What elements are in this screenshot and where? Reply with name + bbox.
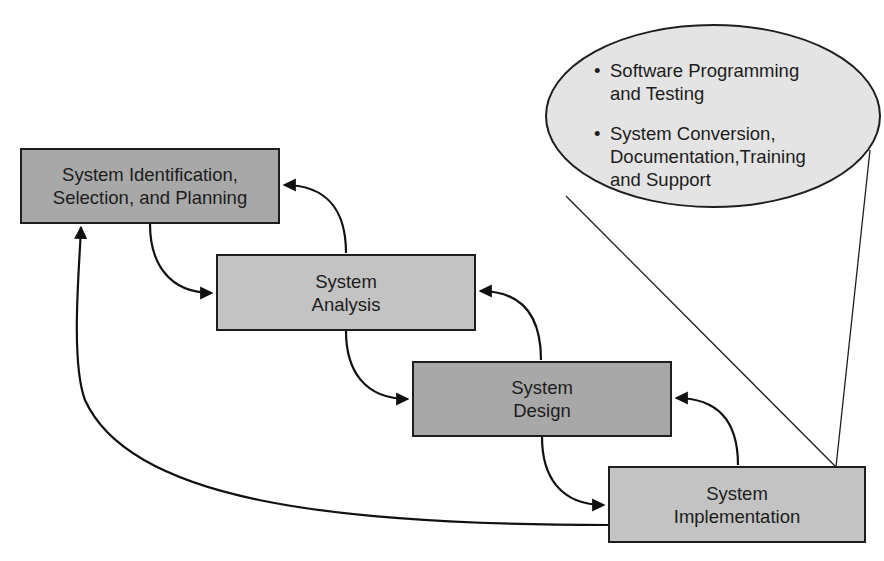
callout-line: System Conversion, bbox=[610, 122, 872, 145]
callout-line: Software Programming bbox=[610, 59, 872, 82]
arrow-design-to-analysis bbox=[480, 291, 541, 360]
arrow-implementation-to-design bbox=[676, 398, 738, 465]
bullet-icon: • bbox=[594, 122, 600, 145]
bullet-icon: • bbox=[594, 59, 600, 82]
arrow-design-to-implementation bbox=[542, 437, 604, 505]
stage-label-line: System bbox=[674, 482, 800, 505]
stage-label-line: Selection, and Planning bbox=[53, 186, 247, 209]
stage-label-line: System Identification, bbox=[53, 163, 247, 186]
stage-label-line: Analysis bbox=[312, 293, 381, 316]
callout-line: and Testing bbox=[610, 82, 872, 105]
stage-implementation[interactable]: System Implementation bbox=[608, 466, 866, 543]
stage-label-line: Implementation bbox=[674, 505, 800, 528]
callout-list: • Software Programming and Testing • Sys… bbox=[592, 59, 872, 191]
callout-line: Documentation,Training bbox=[610, 145, 872, 168]
stage-label-line: System bbox=[312, 270, 381, 293]
callout-line: and Support bbox=[610, 168, 872, 191]
stage-label-line: Design bbox=[511, 399, 573, 422]
stage-analysis[interactable]: System Analysis bbox=[216, 254, 476, 331]
callout-line-right bbox=[836, 150, 870, 467]
stage-planning[interactable]: System Identification, Selection, and Pl… bbox=[20, 148, 280, 224]
callout-item: • Software Programming and Testing bbox=[592, 59, 872, 105]
stage-design[interactable]: System Design bbox=[412, 361, 672, 437]
arrow-analysis-to-planning bbox=[284, 185, 346, 253]
arrow-planning-to-analysis bbox=[150, 224, 212, 293]
stage-label-line: System bbox=[511, 376, 573, 399]
arrow-analysis-to-design bbox=[346, 331, 408, 399]
callout-item: • System Conversion, Documentation,Train… bbox=[592, 122, 872, 191]
